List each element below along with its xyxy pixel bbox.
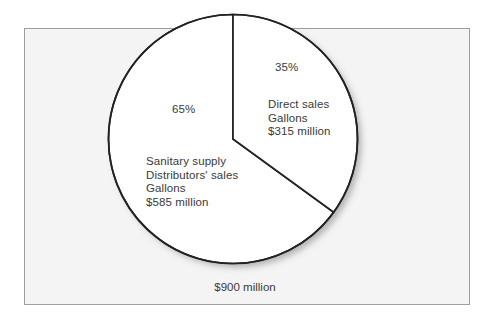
slice-label-percent-sanitary-supply: 65% [172, 103, 195, 117]
pie-chart-figure: 35% Direct sales Gallons $315 million 65… [0, 0, 495, 326]
slice-label-detail-sanitary-supply: Sanitary supply Distributors' sales Gall… [146, 155, 238, 209]
chart-total-caption: $900 million [190, 281, 300, 293]
slice-label-percent-direct-sales: 35% [275, 61, 298, 75]
slice-label-detail-direct-sales: Direct sales Gallons $315 million [268, 98, 331, 139]
